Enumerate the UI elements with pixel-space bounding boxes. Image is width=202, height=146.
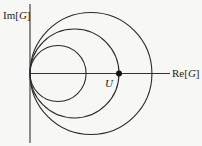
point-u-label: U [105, 77, 114, 89]
y-axis-label: Im[G] [3, 9, 31, 21]
point-u-marker [116, 71, 122, 77]
x-axis-label: Re[G] [172, 67, 200, 79]
diagram-canvas: Im[G] Re[G] U [0, 0, 202, 146]
